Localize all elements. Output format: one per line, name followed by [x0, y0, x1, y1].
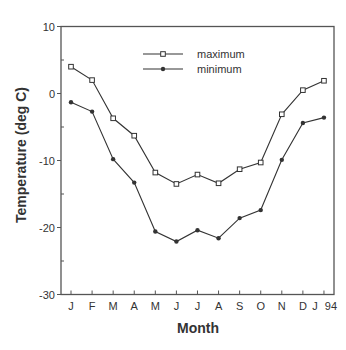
x-tick-label: J	[174, 300, 180, 312]
x-tick-label: 94	[325, 300, 337, 312]
marker-filled-circle	[132, 180, 136, 184]
y-axis: 100-10-20-30	[39, 21, 64, 301]
marker-open-square	[258, 160, 263, 165]
marker-open-square	[301, 88, 306, 93]
x-axis: JFMAMJJASONDJ94	[68, 291, 337, 312]
legend-label-minimum: minimum	[197, 63, 242, 75]
marker-filled-circle	[237, 216, 241, 220]
marker-open-square	[322, 78, 327, 83]
marker-filled-circle	[153, 229, 157, 233]
y-tick-label: -30	[39, 289, 55, 301]
marker-filled-circle	[259, 208, 263, 212]
marker-open-square	[216, 181, 221, 186]
x-tick-label: M	[151, 300, 160, 312]
marker-filled-circle	[216, 236, 220, 240]
marker-open-square	[90, 78, 95, 83]
y-tick-label: -10	[39, 155, 55, 167]
marker-open-square	[195, 172, 200, 177]
marker-filled-circle	[195, 228, 199, 232]
marker-filled-circle	[301, 121, 305, 125]
marker-filled-circle	[111, 157, 115, 161]
x-axis-title: Month	[177, 320, 219, 336]
marker-filled-circle	[90, 109, 94, 113]
y-tick-label: 10	[43, 21, 55, 33]
marker-filled-circle	[69, 100, 73, 104]
y-tick-label: 0	[49, 88, 55, 100]
temperature-chart: 100-10-20-30 JFMAMJJASONDJ94 maximummini…	[0, 0, 346, 350]
y-axis-title: Temperature (deg C)	[13, 87, 29, 223]
legend: maximumminimum	[143, 48, 245, 75]
legend-marker-filled-circle	[161, 67, 165, 71]
x-tick-label: D	[299, 300, 307, 312]
x-tick-label: A	[131, 300, 139, 312]
marker-open-square	[280, 112, 285, 117]
y-tick-label: -20	[39, 222, 55, 234]
x-tick-label: J	[195, 300, 201, 312]
x-tick-label: O	[256, 300, 265, 312]
x-tick-label: A	[215, 300, 223, 312]
marker-open-square	[132, 133, 137, 138]
marker-open-square	[237, 167, 242, 172]
marker-filled-circle	[280, 158, 284, 162]
marker-open-square	[174, 182, 179, 187]
series-line-maximum	[71, 67, 324, 184]
x-tick-label: J	[312, 300, 318, 312]
marker-filled-circle	[322, 115, 326, 119]
legend-marker-open-square	[161, 52, 166, 57]
series-layer	[69, 64, 327, 243]
legend-label-maximum: maximum	[197, 48, 245, 60]
x-tick-label: M	[109, 300, 118, 312]
x-tick-label: F	[89, 300, 96, 312]
marker-open-square	[153, 170, 158, 175]
x-tick-label: N	[278, 300, 286, 312]
x-tick-label: S	[236, 300, 243, 312]
marker-filled-circle	[174, 239, 178, 243]
x-tick-label: J	[68, 300, 74, 312]
marker-open-square	[69, 64, 74, 69]
marker-open-square	[111, 116, 116, 121]
